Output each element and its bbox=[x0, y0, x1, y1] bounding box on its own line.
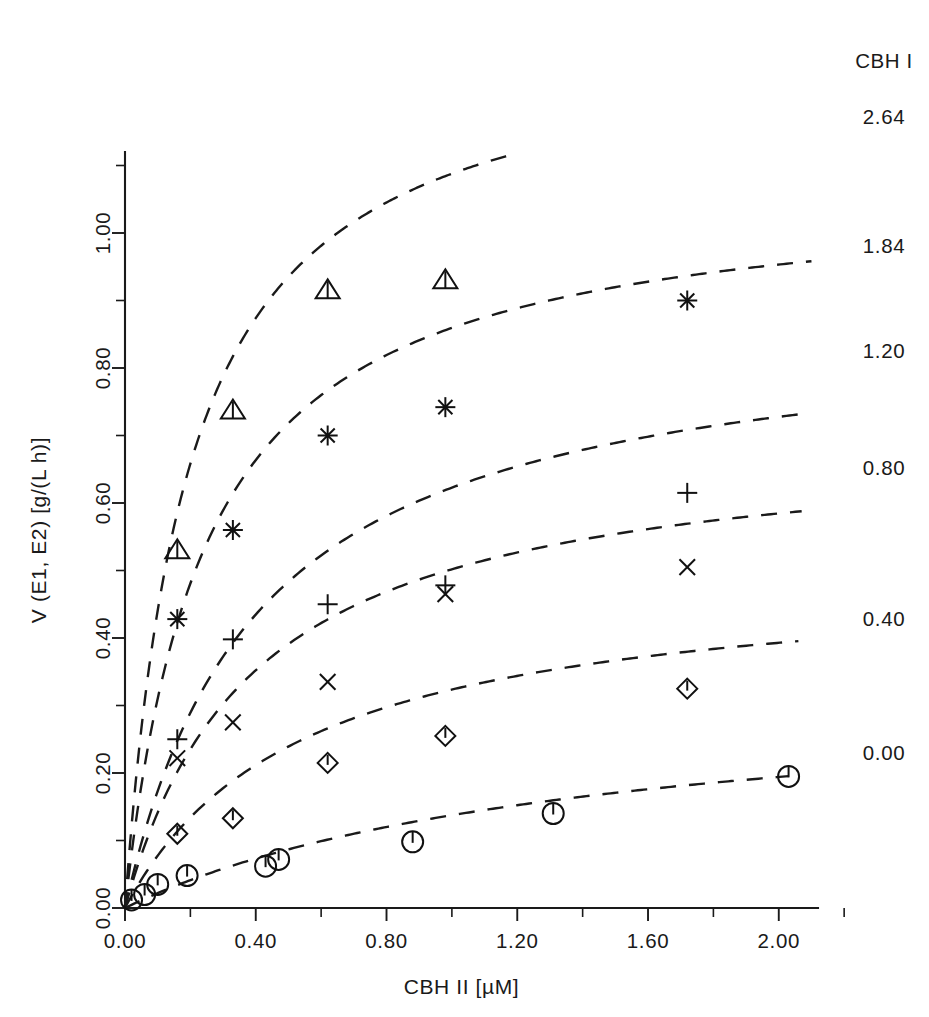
series-2-64 bbox=[165, 269, 457, 558]
y-tick-label: 0.00 bbox=[91, 887, 114, 929]
fit-curve-1-20 bbox=[125, 414, 805, 908]
y-tick-label: 0.20 bbox=[91, 752, 114, 794]
x-tick-label: 1.60 bbox=[627, 929, 669, 952]
fit-curve-1-84 bbox=[125, 261, 811, 908]
x-axis-title: CBH II [µM] bbox=[404, 975, 520, 998]
legend-value: 1.84 bbox=[863, 234, 905, 257]
x-tick-label: 0.80 bbox=[365, 929, 407, 952]
series-1-84 bbox=[167, 291, 697, 630]
legend-value: 0.40 bbox=[863, 607, 905, 630]
marker-asterisk-center bbox=[175, 617, 180, 622]
scatter-plot-svg: 0.000.400.801.201.602.000.000.200.400.60… bbox=[0, 0, 929, 1017]
series-0-80 bbox=[170, 559, 696, 766]
x-tick-label: 0.40 bbox=[235, 929, 277, 952]
marker-asterisk-center bbox=[231, 528, 236, 533]
legend-value: 2.64 bbox=[863, 105, 905, 128]
legend-value: 0.80 bbox=[863, 456, 905, 479]
x-tick-label: 1.20 bbox=[496, 929, 538, 952]
y-tick-label: 0.40 bbox=[91, 617, 114, 659]
y-tick-label: 1.00 bbox=[91, 212, 114, 254]
series-1-20 bbox=[167, 483, 697, 749]
fit-curve-0-40 bbox=[125, 641, 798, 908]
legend-value: 0.00 bbox=[863, 741, 905, 764]
chart-figure: 0.000.400.801.201.602.000.000.200.400.60… bbox=[0, 0, 929, 1017]
marker-asterisk-center bbox=[685, 298, 690, 303]
fit-curve-2-64 bbox=[125, 156, 507, 908]
fit-curve-0-00 bbox=[125, 776, 789, 908]
y-tick-label: 0.80 bbox=[91, 347, 114, 389]
chart-text-group: 0.000.400.801.201.602.000.000.200.400.60… bbox=[27, 49, 913, 998]
x-tick-label: 2.00 bbox=[758, 929, 800, 952]
marker-asterisk-center bbox=[325, 433, 330, 438]
y-axis-title: V (E1, E2) [g/(L h)] bbox=[27, 437, 50, 623]
x-tick-label: 0.00 bbox=[104, 929, 146, 952]
legend-value: 1.20 bbox=[863, 339, 905, 362]
fit-curve-0-80 bbox=[125, 511, 802, 908]
fit-curve-group bbox=[125, 156, 811, 908]
y-tick-label: 0.60 bbox=[91, 482, 114, 524]
legend-header: CBH I bbox=[855, 49, 913, 72]
axis-group bbox=[112, 152, 844, 921]
marker-asterisk-center bbox=[443, 405, 448, 410]
